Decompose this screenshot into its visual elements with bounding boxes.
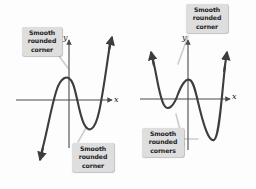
right-y-axis-label: y — [182, 33, 187, 42]
callout-right-bottom-line3: corners — [145, 147, 181, 155]
callout-right-bottom-line2: rounded — [145, 138, 181, 146]
callout-right-bottom-line1: Smooth — [145, 130, 181, 138]
right-curve-arrow-up-left — [151, 52, 154, 66]
callout-right-bottom: Smooth rounded corners — [142, 128, 184, 157]
figure-container: y x y x Smooth rounded corner Smooth rou… — [0, 0, 256, 189]
callout-left-bottom: Smooth rounded corner — [72, 143, 114, 172]
callout-left-top-line2: rounded — [25, 37, 59, 45]
callout-left-bottom-line2: rounded — [75, 153, 111, 161]
left-x-axis-label: x — [114, 95, 119, 104]
callout-left-bottom-line3: corner — [75, 162, 111, 170]
callout-left-bottom-line1: Smooth — [75, 145, 111, 153]
callout-left-top-line3: corner — [25, 46, 59, 54]
left-y-axis-label: y — [63, 33, 68, 42]
callout-right-top-line1: Smooth — [189, 6, 225, 14]
callout-left-top-line1: Smooth — [25, 29, 59, 37]
callout-left-top: Smooth rounded corner — [22, 27, 62, 56]
right-x-axis-label: x — [232, 92, 237, 101]
right-curve-arrow-up-right — [224, 52, 227, 72]
callout-right-top-line2: rounded — [189, 14, 225, 22]
callout-right-top-line3: corner — [189, 23, 225, 31]
callout-right-top: Smooth rounded corner — [186, 4, 228, 33]
